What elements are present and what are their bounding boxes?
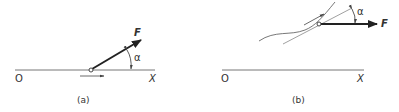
x-axis-label-a: X	[149, 74, 156, 84]
particle-b	[317, 22, 321, 26]
panel-b	[222, 2, 377, 70]
angle-label-a: α	[134, 53, 141, 63]
force-diagram	[0, 0, 399, 112]
angle-label-b: α	[357, 7, 364, 17]
particle-a	[89, 68, 93, 72]
origin-label-b: O	[221, 74, 229, 84]
force-label-a: F	[134, 28, 141, 38]
origin-label-a: O	[15, 74, 23, 84]
angle-arc-a	[127, 50, 131, 69]
x-axis-label-b: X	[357, 74, 364, 84]
trajectory-curve-b	[259, 2, 335, 41]
caption-b: (b)	[292, 96, 305, 105]
caption-a: (a)	[77, 96, 90, 105]
force-label-b: F	[381, 19, 388, 29]
tangent-line-b	[283, 8, 352, 44]
angle-arc-b	[352, 9, 355, 23]
